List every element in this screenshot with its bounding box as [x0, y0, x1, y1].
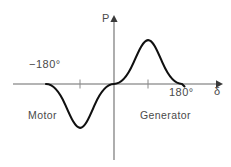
y-axis-label-p: P — [102, 13, 110, 24]
y-axis-arrowhead — [110, 15, 117, 22]
x-axis-label-delta: δ — [214, 86, 220, 97]
power-angle-curve-figure: P δ −180° 180° Motor Generator — [0, 0, 231, 167]
region-label-generator: Generator — [140, 110, 191, 121]
x-axis-tick-label-minus-180: −180° — [29, 59, 61, 70]
plot-canvas — [0, 0, 231, 167]
x-axis-tick-label-plus-180: 180° — [169, 87, 194, 98]
region-label-motor: Motor — [28, 110, 57, 121]
